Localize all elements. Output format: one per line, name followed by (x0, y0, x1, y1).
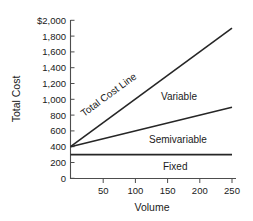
y-tick-label-800: 800 (50, 110, 66, 121)
cost-behavior-chart: $2,000 1,800 1,600 1,400 1,200 1,000 800… (0, 0, 253, 221)
annotation-total-cost-line: Total Cost Line (79, 70, 139, 118)
y-tick-label-1000: 1,000 (42, 94, 66, 105)
y-tick-label-400: 400 (50, 141, 66, 152)
x-axis-title: Volume (134, 201, 169, 213)
x-tick-label-150: 150 (160, 185, 176, 196)
x-tick-label-50: 50 (98, 185, 109, 196)
y-tick-label-2000: $2,000 (37, 15, 66, 26)
y-tick-label-0: 0 (61, 173, 66, 184)
x-tick-label-250: 250 (224, 185, 240, 196)
y-tick-label-1600: 1,600 (42, 46, 66, 57)
x-axis-ticks (103, 179, 232, 184)
y-tick-label-1800: 1,800 (42, 31, 66, 42)
y-axis-tick-labels: $2,000 1,800 1,600 1,400 1,200 1,000 800… (37, 15, 66, 184)
x-tick-label-200: 200 (192, 185, 208, 196)
x-tick-label-100: 100 (127, 185, 143, 196)
x-axis-tick-labels: 50 100 150 200 250 (98, 185, 240, 196)
y-axis-title: Total Cost (10, 76, 22, 123)
y-tick-label-1400: 1,400 (42, 62, 66, 73)
annotation-fixed: Fixed (163, 161, 187, 172)
series-line-total-cost (71, 28, 233, 147)
annotation-variable: Variable (161, 91, 197, 102)
y-tick-label-1200: 1,200 (42, 78, 66, 89)
chart-canvas: $2,000 1,800 1,600 1,400 1,200 1,000 800… (0, 0, 253, 221)
annotation-semivariable: Semivariable (149, 134, 207, 145)
y-tick-label-200: 200 (50, 157, 66, 168)
y-tick-label-600: 600 (50, 125, 66, 136)
